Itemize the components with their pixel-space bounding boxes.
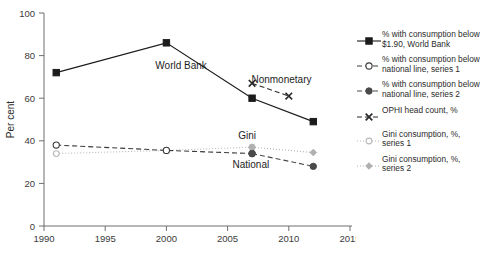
y-axis-ticks bbox=[39, 13, 44, 226]
legend-marker-icon bbox=[356, 83, 382, 95]
legend-item-label: Gini consumption, %, series 2 bbox=[382, 155, 460, 174]
legend-item[interactable]: % with consumption below national line, … bbox=[356, 55, 500, 74]
data-point-marker bbox=[163, 147, 169, 153]
series-annotation: Nonmonetary bbox=[251, 74, 311, 85]
legend-item[interactable]: % with consumption below $1.90, World Ba… bbox=[356, 30, 500, 49]
figure-container: 100 80 60 40 20 0 1990 1995 2000 2005 20… bbox=[0, 0, 500, 262]
data-point-marker bbox=[310, 163, 316, 169]
legend-item-label: % with consumption below national line, … bbox=[382, 80, 480, 99]
data-point-marker bbox=[310, 118, 316, 124]
series-annotation: National bbox=[233, 159, 270, 170]
legend-item-label: % with consumption below $1.90, World Ba… bbox=[382, 30, 480, 49]
data-point-marker bbox=[366, 138, 372, 144]
series-annotation: World Bank bbox=[155, 60, 208, 71]
legend-marker-icon bbox=[356, 33, 382, 45]
legend-item[interactable]: OPHI head count, % bbox=[356, 106, 500, 124]
data-point-marker bbox=[53, 151, 59, 157]
y-tick-label-40: 40 bbox=[24, 135, 35, 146]
y-tick-label-100: 100 bbox=[19, 8, 35, 19]
data-point-marker bbox=[163, 40, 169, 46]
data-point-marker bbox=[310, 149, 317, 156]
chart-plot-area: 100 80 60 40 20 0 1990 1995 2000 2005 20… bbox=[0, 0, 356, 262]
chart-series bbox=[53, 142, 255, 157]
series-line bbox=[56, 145, 252, 154]
legend-item-label: Gini consumption, %, series 1 bbox=[382, 130, 460, 149]
legend-item[interactable]: Gini consumption, %, series 2 bbox=[356, 155, 500, 174]
y-axis-title: Per cent bbox=[5, 101, 16, 138]
chart-series bbox=[249, 144, 317, 156]
legend-item[interactable]: Gini consumption, %, series 1 bbox=[356, 130, 500, 149]
data-point-marker bbox=[366, 88, 372, 94]
y-tick-label-60: 60 bbox=[24, 93, 35, 104]
series-layer bbox=[53, 40, 317, 170]
x-tick-label-2015: 2015 bbox=[339, 233, 356, 244]
legend-item-label: % with consumption below national line, … bbox=[382, 55, 480, 74]
x-tick-label-1990: 1990 bbox=[33, 233, 54, 244]
data-point-marker bbox=[249, 150, 255, 156]
series-line bbox=[252, 147, 313, 152]
y-tick-label-0: 0 bbox=[30, 221, 35, 232]
data-point-marker bbox=[366, 38, 372, 44]
data-point-marker bbox=[53, 69, 59, 75]
legend-item[interactable]: % with consumption below national line, … bbox=[356, 80, 500, 99]
legend-marker-icon bbox=[356, 58, 382, 70]
y-tick-label-80: 80 bbox=[24, 50, 35, 61]
data-point-marker bbox=[366, 63, 372, 69]
legend-marker-icon bbox=[356, 158, 382, 170]
data-point-marker bbox=[249, 95, 255, 101]
x-tick-label-1995: 1995 bbox=[95, 233, 116, 244]
y-tick-label-20: 20 bbox=[24, 178, 35, 189]
annotation-layer: World BankNonmonetaryGiniNational bbox=[155, 60, 311, 170]
x-axis-ticks bbox=[44, 226, 350, 231]
legend-marker-icon bbox=[356, 109, 382, 121]
data-point-marker bbox=[286, 93, 293, 100]
x-tick-label-2000: 2000 bbox=[156, 233, 177, 244]
data-point-marker bbox=[366, 162, 373, 169]
legend-marker-icon bbox=[356, 133, 382, 145]
legend-item-label: OPHI head count, % bbox=[382, 106, 458, 116]
chart-legend: % with consumption below $1.90, World Ba… bbox=[356, 30, 500, 180]
series-annotation: Gini bbox=[238, 130, 256, 141]
x-tick-label-2005: 2005 bbox=[217, 233, 238, 244]
series-line bbox=[56, 147, 252, 153]
x-tick-label-2010: 2010 bbox=[278, 233, 299, 244]
data-point-marker bbox=[53, 142, 59, 148]
